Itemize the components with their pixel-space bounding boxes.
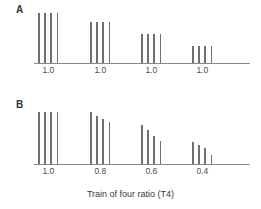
twitch-bar xyxy=(153,34,155,63)
twitch-bar xyxy=(211,46,213,64)
panel-b-axis-line xyxy=(34,164,250,165)
twitch-bar xyxy=(50,112,52,164)
panel-b-letter: B xyxy=(16,100,23,110)
tick-label: 1.0 xyxy=(94,66,106,75)
panel-a-plot xyxy=(34,8,250,64)
twitch-bar xyxy=(50,13,52,63)
tick-label: 0.4 xyxy=(196,167,208,176)
twitch-bar xyxy=(160,34,162,63)
panel-b-tick-labels: 1.00.80.60.4 xyxy=(34,167,250,181)
panel-a-bars xyxy=(34,7,250,63)
tick-label: 0.8 xyxy=(94,167,106,176)
twitch-bar xyxy=(198,145,200,164)
panel-b: B 1.00.80.60.4 xyxy=(0,95,261,185)
twitch-bar xyxy=(38,112,40,164)
tick-label: 1.0 xyxy=(42,167,54,176)
twitch-bar xyxy=(141,34,143,63)
twitch-bar xyxy=(204,148,206,164)
twitch-bar xyxy=(211,155,213,164)
twitch-bar xyxy=(192,46,194,64)
tick-label: 1.0 xyxy=(42,66,54,75)
tick-label: 0.6 xyxy=(145,167,157,176)
tick-label: 1.0 xyxy=(145,66,157,75)
panel-a-axis-line xyxy=(34,63,250,64)
twitch-bar xyxy=(147,34,149,63)
twitch-bar xyxy=(109,22,111,64)
twitch-bar xyxy=(141,125,143,164)
panel-b-plot xyxy=(34,108,250,165)
panel-a: A 1.01.01.01.0 xyxy=(0,0,261,95)
twitch-bar xyxy=(90,22,92,64)
twitch-bar xyxy=(57,13,59,63)
twitch-bar xyxy=(109,122,111,164)
twitch-bar xyxy=(153,136,155,164)
twitch-bar xyxy=(198,46,200,64)
twitch-bar xyxy=(96,116,98,164)
twitch-bar xyxy=(160,141,162,164)
tick-label: 1.0 xyxy=(196,66,208,75)
twitch-bar xyxy=(90,112,92,164)
panel-a-letter: A xyxy=(16,5,23,15)
twitch-bar xyxy=(96,22,98,64)
twitch-bar xyxy=(102,22,104,64)
panel-a-tick-labels: 1.01.01.01.0 xyxy=(34,66,250,80)
twitch-bar xyxy=(44,112,46,164)
twitch-bar xyxy=(192,142,194,164)
panel-b-bars xyxy=(34,107,250,164)
twitch-bar xyxy=(44,13,46,63)
twitch-bar xyxy=(204,46,206,64)
twitch-bar xyxy=(102,119,104,164)
twitch-bar xyxy=(147,130,149,164)
x-axis-title: Train of four ratio (T4) xyxy=(0,190,261,199)
twitch-bar xyxy=(38,13,40,63)
twitch-bar xyxy=(57,112,59,164)
train-of-four-figure: A 1.01.01.01.0 B 1.00.80.60.4 Train of f… xyxy=(0,0,261,209)
